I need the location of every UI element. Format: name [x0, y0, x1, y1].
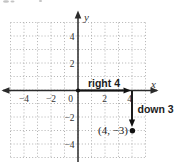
y-tick-neg2: −2	[64, 113, 74, 123]
plotted-point	[130, 128, 135, 133]
coordinate-plane-figure: y x 4 2 −2 −4 −4 −2 0 2 4 right 4 down 3…	[0, 0, 180, 162]
x-axis-label: x	[150, 78, 156, 90]
y-axis-label: y	[83, 11, 89, 23]
y-axis-up-arrow-icon	[75, 11, 82, 19]
move-down-arrowhead-icon	[129, 120, 135, 128]
cropped-text-artifact	[3, 0, 42, 3]
move-down-label: down 3	[138, 103, 174, 115]
point-label: (4, −3)	[98, 124, 128, 137]
x-tick-0: 0	[68, 94, 73, 104]
x-tick-neg2: −2	[46, 94, 56, 104]
y-tick-2: 2	[70, 59, 75, 69]
x-tick-neg4: −4	[19, 94, 29, 104]
x-tick-2: 2	[102, 94, 107, 104]
x-axis-left-arrow-icon	[2, 87, 10, 94]
move-right-label: right 4	[88, 77, 120, 89]
y-tick-neg4: −4	[64, 140, 74, 150]
figure-canvas: y x 4 2 −2 −4 −4 −2 0 2 4 right 4 down 3…	[0, 0, 180, 162]
y-tick-4: 4	[70, 32, 75, 42]
